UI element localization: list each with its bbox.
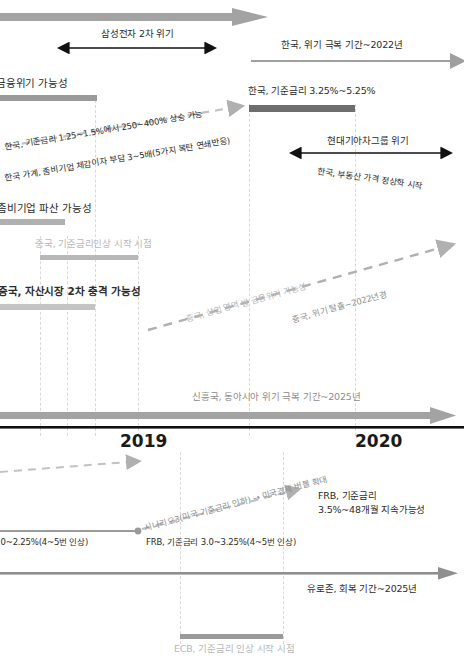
year-label-2019: 2019 <box>120 431 167 452</box>
bar-china-asset-shock <box>0 304 95 310</box>
label-eurozone-recovery: 유로존, 회복 기간~2025년 <box>307 583 417 595</box>
bar-korea-base-rate <box>249 105 355 112</box>
year-label-2020: 2020 <box>355 431 402 452</box>
label-samsung-crisis: 삼성전자 2차 위기 <box>101 28 174 40</box>
emerging-recovery-arrow <box>0 407 456 424</box>
bar-zombie-bankruptcy <box>0 219 65 225</box>
eurozone-recovery-arrow <box>0 567 458 580</box>
label-frb-sustain-line1: FRB, 기준금리 <box>318 490 377 502</box>
center-axis <box>0 426 464 429</box>
label-emerging-recovery: 신흥국, 동아시아 위기 극복 기간~2025년 <box>192 391 360 403</box>
timeline-diagram: 삼성전자 2차 위기 한국, 위기 극복 기간~2022년 금융위기 가능성 한… <box>0 0 464 664</box>
label-ecb-start: ECB, 기준금리 인상 시작 시점 <box>174 643 295 655</box>
label-zombie-bankruptcy: 좀비기업 파산 가능성 <box>0 202 91 215</box>
label-china-rate-hike-start: 중국, 기준금리인상 시작 시점 <box>35 238 152 250</box>
bar-financial-crisis <box>0 95 97 101</box>
top-grey-arrow <box>0 8 268 26</box>
label-frb-rate-mid: FRB, 기준금리 3.0~3.25%(4~5번 인상) <box>146 537 296 548</box>
label-financial-crisis-possibility: 금융위기 가능성 <box>0 77 68 90</box>
lower-left-dashed-arrow <box>0 462 128 472</box>
bar-ecb-rate-hike <box>180 634 283 639</box>
label-hyundai-kia-crisis: 현대기아차그룹 위기 <box>327 135 409 147</box>
label-korea-recovery: 한국, 위기 극복 기간~2022년 <box>281 39 403 51</box>
label-frb-sustain-line2: 3.5%~48개월 지속가능성 <box>318 504 425 516</box>
label-frb-hike-left: .0~2.25%(4~5번 인상) <box>0 537 88 548</box>
bar-china-rate-hike <box>40 255 138 260</box>
label-korea-base-rate-top: 한국, 기준금리 3.25%~5.25% <box>248 85 375 97</box>
label-china-asset-shock: 중국, 자산시장 2차 충격 가능성 <box>0 285 140 298</box>
